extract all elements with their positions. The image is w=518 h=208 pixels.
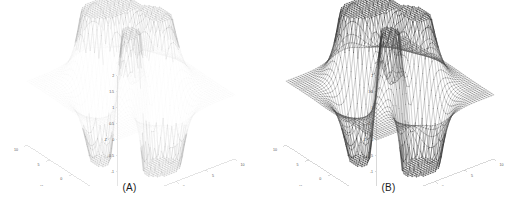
svg-text:0: 0 [371,138,373,142]
svg-text:1.5: 1.5 [368,90,373,94]
svg-text:0: 0 [60,177,62,181]
surface-plot-a: -2-1.5-1-0.500.511.52Z-10-50510X-10-5051… [0,0,259,186]
svg-text:2: 2 [371,74,373,78]
svg-text:5: 5 [38,163,40,167]
svg-text:Z: Z [105,137,108,142]
mesh-group [27,0,235,177]
svg-text:1: 1 [112,106,114,110]
panel-b-caption: (B) [259,182,518,193]
svg-text:10: 10 [499,163,503,167]
svg-text:Z: Z [364,137,367,142]
svg-text:10: 10 [240,163,244,167]
svg-text:0.5: 0.5 [368,122,373,126]
panel-a: -2-1.5-1-0.500.511.52Z-10-50510X-10-5051… [0,0,259,208]
panel-a-caption: (A) [0,182,259,193]
svg-text:5: 5 [212,174,214,178]
panel-b: -2-1.5-1-0.500.511.52Z-10-50510X-10-5051… [259,0,518,208]
svg-text:5: 5 [471,174,473,178]
svg-text:0.5: 0.5 [109,122,114,126]
svg-text:5: 5 [297,163,299,167]
svg-text:0: 0 [112,138,114,142]
mesh-group [286,0,494,177]
svg-text:-0.5: -0.5 [367,154,373,158]
svg-text:1.5: 1.5 [109,90,114,94]
svg-text:-0.5: -0.5 [108,154,114,158]
svg-text:1: 1 [371,106,373,110]
svg-text:10: 10 [14,148,18,152]
svg-text:-1: -1 [111,170,114,174]
svg-text:0: 0 [319,177,321,181]
figure-container: -2-1.5-1-0.500.511.52Z-10-50510X-10-5051… [0,0,518,208]
svg-text:10: 10 [273,148,277,152]
svg-text:-1: -1 [370,170,373,174]
surface-plot-b: -2-1.5-1-0.500.511.52Z-10-50510X-10-5051… [259,0,518,186]
svg-text:2: 2 [112,74,114,78]
